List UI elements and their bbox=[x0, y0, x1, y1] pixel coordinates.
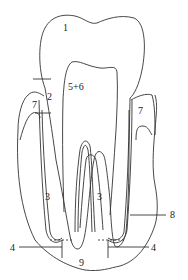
label-9: 9 bbox=[79, 257, 84, 268]
label-3-right: 3 bbox=[97, 191, 102, 202]
label-5-6: 5+6 bbox=[68, 81, 84, 92]
label-8: 8 bbox=[170, 209, 175, 220]
gingiva-right bbox=[131, 94, 155, 140]
label-3-left: 3 bbox=[45, 191, 50, 202]
bone-outline bbox=[18, 95, 158, 271]
label-2: 2 bbox=[47, 91, 52, 102]
label-4-left: 4 bbox=[10, 242, 15, 253]
label-1: 1 bbox=[63, 22, 68, 33]
tooth-diagram: 1 2 3 3 4 4 5+6 7 7 8 9 bbox=[0, 0, 188, 280]
label-7-left: 7 bbox=[32, 99, 37, 110]
label-4-right: 4 bbox=[151, 242, 156, 253]
label-7-right: 7 bbox=[138, 105, 143, 116]
